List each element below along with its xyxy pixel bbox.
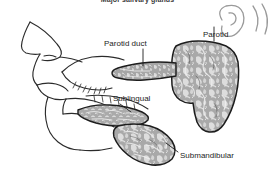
anatomy-illustration [0,0,275,175]
figure-title: Major salivary glands [0,0,275,4]
parotid-duct [62,56,176,94]
parotid-gland [172,41,239,132]
face-profile [22,22,83,85]
label-sublingual: Sublingual [113,94,150,103]
sublingual-gland [78,105,148,126]
label-parotid: Parotid [203,30,228,39]
label-parotid-duct: Parotid duct [104,39,147,48]
label-submandibular: Submandibular [180,151,234,160]
submandibular-gland [114,124,176,165]
salivary-glands-figure: Major salivary glands [0,0,275,175]
